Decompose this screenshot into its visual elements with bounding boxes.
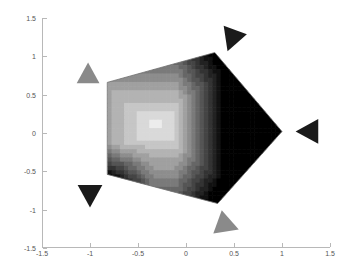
- y-tick-label: -1: [30, 206, 36, 213]
- x-tick-mark: [282, 243, 283, 247]
- x-tick-label: -0.5: [132, 250, 144, 257]
- x-tick-mark: [138, 243, 139, 247]
- x-tick-label: 1: [280, 250, 284, 257]
- x-tick-label: 1.5: [325, 250, 335, 257]
- x-axis-ticks: -1.5-1-0.500.511.5: [42, 247, 330, 248]
- x-tick-label: 0: [184, 250, 188, 257]
- x-tick-mark: [90, 243, 91, 247]
- x-tick-mark: [42, 243, 43, 247]
- x-tick-mark: [330, 243, 331, 247]
- x-tick-mark: [186, 243, 187, 247]
- figure-canvas: -1.5-1-0.500.511.5 -1.5-1-0.500.511.5: [0, 0, 346, 276]
- x-tick-label: -1: [87, 250, 93, 257]
- y-tick-mark: [43, 133, 47, 134]
- y-tick-mark: [43, 56, 47, 57]
- y-tick-mark: [43, 95, 47, 96]
- y-tick-label: -1.5: [24, 245, 36, 252]
- x-tick-label: 0.5: [229, 250, 239, 257]
- y-tick-label: 1: [32, 53, 36, 60]
- y-tick-label: 0.5: [26, 91, 36, 98]
- y-tick-mark: [43, 210, 47, 211]
- y-tick-label: -0.5: [24, 168, 36, 175]
- y-tick-mark: [43, 171, 47, 172]
- y-tick-label: 0: [32, 130, 36, 137]
- plot-area: -1.5-1-0.500.511.5 -1.5-1-0.500.511.5: [42, 18, 330, 248]
- x-tick-label: -1.5: [36, 250, 48, 257]
- y-tick-label: 1.5: [26, 15, 36, 22]
- y-tick-mark: [43, 248, 47, 249]
- y-tick-mark: [43, 18, 47, 19]
- x-tick-mark: [234, 243, 235, 247]
